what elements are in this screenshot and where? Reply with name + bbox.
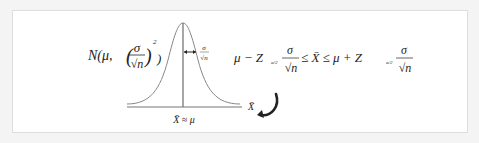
right-big-paren: ) [144, 45, 152, 68]
dist-exponent: 2 [153, 38, 157, 46]
interval-sigma-right: σ [401, 43, 408, 57]
sampling-distribution-diagram: σ √n N(μ, ( σ √n ) 2 ) X̄ ≈ μ X̄ μ − Z α… [0, 0, 479, 143]
dist-close-paren: ) [156, 51, 161, 66]
spread-sigma: σ [202, 44, 206, 52]
axis-label: X̄ [247, 101, 255, 112]
interval-sub-left: α/2 [271, 60, 278, 65]
spread-arrow-icon [184, 50, 196, 54]
interval-sqrt-n-right: √n [399, 61, 412, 75]
interval-sub-right: α/2 [386, 60, 393, 65]
interval-middle: ≤ X̄ ≤ μ + Z [301, 50, 363, 65]
interval-left: μ − Z [233, 50, 264, 65]
dist-sigma: σ [134, 40, 141, 55]
dist-label-N: N(μ, [87, 48, 113, 64]
interval-sqrt-n-left: √n [285, 61, 298, 75]
center-label: X̄ ≈ μ [172, 114, 195, 125]
curved-arrow-icon [260, 94, 277, 115]
dist-sqrt-n: √n [131, 57, 144, 71]
spread-sqrt-n: √n [200, 54, 208, 62]
interval-sigma-left: σ [287, 43, 294, 57]
